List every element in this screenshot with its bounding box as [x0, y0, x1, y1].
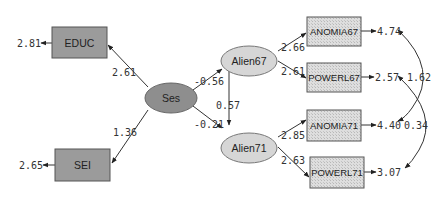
node-educ[interactable]: EDUC: [52, 27, 107, 58]
error-label-anomia67: 4.74: [377, 26, 401, 37]
node-ses-label: Ses: [162, 92, 180, 104]
node-alien71-label: Alien71: [231, 142, 266, 154]
label-alien67-alien71: 0.57: [216, 100, 240, 111]
node-powerl67[interactable]: POWERL67: [307, 63, 361, 92]
node-powerl71-label: POWERL71: [311, 167, 363, 178]
label-cov-anomia: 1.62: [407, 72, 431, 83]
node-ses[interactable]: Ses: [145, 83, 197, 113]
label-alien71-anomia71: 2.85: [281, 130, 305, 141]
node-anomia67-label: ANOMIA67: [310, 26, 358, 37]
label-alien67-powerl67: 2.61: [281, 66, 305, 77]
label-ses-alien67: -0.56: [194, 76, 224, 87]
label-alien67-anomia67: 2.66: [281, 42, 305, 53]
node-alien67-label: Alien67: [231, 55, 266, 67]
path-ses-educ: [108, 45, 148, 87]
node-sei[interactable]: SEI: [55, 149, 110, 181]
node-anomia67[interactable]: ANOMIA67: [307, 17, 361, 46]
label-alien71-powerl71: 2.63: [281, 155, 305, 166]
label-ses-alien71: -0.21: [194, 119, 224, 130]
label-ses-sei: 1.36: [113, 127, 137, 138]
node-alien71[interactable]: Alien71: [221, 133, 277, 163]
sem-diagram: EDUC SEI ANOMIA67 POWERL67 ANOMIA71 POWE…: [0, 0, 443, 201]
error-label-powerl71: 3.07: [377, 167, 401, 178]
error-label-sei: 2.65: [19, 160, 43, 171]
node-sei-label: SEI: [74, 159, 91, 171]
error-label-educ: 2.81: [17, 38, 41, 49]
node-powerl71[interactable]: POWERL71: [310, 157, 364, 188]
node-anomia71[interactable]: ANOMIA71: [307, 110, 361, 141]
node-anomia71-label: ANOMIA71: [310, 120, 358, 131]
label-cov-powerl: 0.34: [404, 120, 428, 131]
node-alien67[interactable]: Alien67: [221, 46, 277, 76]
error-label-powerl67: 2.57: [375, 72, 399, 83]
node-educ-label: EDUC: [65, 37, 95, 49]
label-ses-educ: 2.61: [112, 67, 136, 78]
node-powerl67-label: POWERL67: [308, 72, 360, 83]
error-label-anomia71: 4.40: [377, 120, 401, 131]
